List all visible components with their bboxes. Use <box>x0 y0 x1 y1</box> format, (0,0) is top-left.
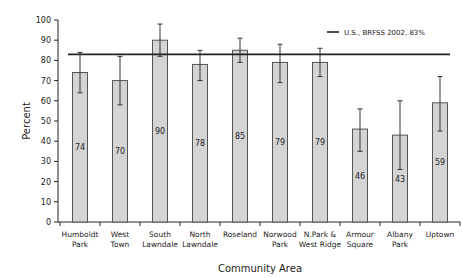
bar-group: 43 <box>393 101 408 222</box>
value-label: 90 <box>155 127 165 136</box>
bar-group: 79 <box>273 44 288 222</box>
y-tick-label: 30 <box>41 157 51 166</box>
category-label: Uptown <box>426 230 455 239</box>
bar-group: 79 <box>313 48 328 222</box>
value-label: 46 <box>355 172 365 181</box>
category-label: NorthLawndale <box>182 230 218 249</box>
value-label: 43 <box>395 175 405 184</box>
y-axis-title: Percent <box>21 102 32 140</box>
y-tick-label: 10 <box>41 198 51 207</box>
bar-group: 78 <box>193 50 208 222</box>
value-label: 78 <box>195 139 205 148</box>
bar-chart: 0102030405060708090100 HumboldtParkWestT… <box>0 0 462 278</box>
y-tick-label: 50 <box>41 117 51 126</box>
bar-group: 46 <box>353 109 368 222</box>
bar-group: 85 <box>233 38 248 222</box>
y-tick-label: 90 <box>41 36 51 45</box>
legend: U.S., BRFSS 2002, 83% <box>327 29 425 37</box>
value-label: 70 <box>115 147 125 156</box>
category-label: Roseland <box>223 230 257 239</box>
category-label: NorwoodPark <box>263 230 297 249</box>
y-tick-label: 20 <box>41 178 51 187</box>
y-tick-label: 80 <box>41 56 51 65</box>
value-label: 79 <box>275 138 285 147</box>
bar-group: 74 <box>73 52 88 222</box>
bar-group: 59 <box>433 77 448 222</box>
bar-group: 70 <box>113 56 128 222</box>
x-axis: HumboldtParkWestTownSouthLawndaleNorthLa… <box>58 222 460 249</box>
value-label: 79 <box>315 138 325 147</box>
x-axis-title: Community Area <box>218 263 302 274</box>
y-tick-label: 60 <box>41 97 51 106</box>
y-axis: 0102030405060708090100 <box>36 16 58 227</box>
value-label: 85 <box>235 132 245 141</box>
y-tick-label: 100 <box>36 16 51 25</box>
category-label: WestTown <box>110 230 130 249</box>
category-label: SouthLawndale <box>142 230 178 249</box>
y-tick-label: 70 <box>41 77 51 86</box>
category-label: N.Park &West Ridge <box>299 230 342 249</box>
y-tick-label: 40 <box>41 137 51 146</box>
category-label: HumboldtPark <box>62 230 99 249</box>
legend-label: U.S., BRFSS 2002, 83% <box>344 29 425 37</box>
value-label: 59 <box>435 158 445 167</box>
category-label: AlbanyPark <box>387 230 413 249</box>
category-label: ArmourSquare <box>346 230 375 249</box>
value-label: 74 <box>75 143 85 152</box>
y-tick-label: 0 <box>46 218 51 227</box>
